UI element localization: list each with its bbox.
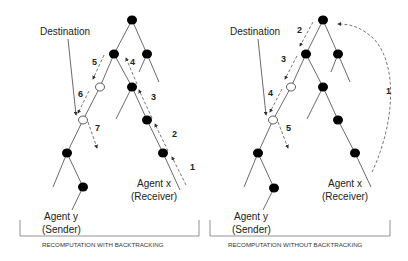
right-panel: 1 2 3 4 5 Destination Agent x (Receiver)…	[210, 16, 391, 249]
right-step-arrows	[270, 22, 391, 172]
destination-pointer-arrow	[68, 39, 76, 115]
step-label: 3	[281, 54, 286, 64]
right-tree-nodes	[253, 16, 360, 193]
step-label: 5	[92, 57, 97, 67]
left-tree-nodes	[62, 16, 168, 192]
tree-node	[253, 149, 263, 158]
tree-node	[127, 83, 137, 92]
receiver-label: Agent x	[137, 178, 171, 189]
left-panel: 1 2 3 4 5 6 7 Destination Agent x (Recei…	[20, 16, 199, 249]
sender-node	[269, 184, 279, 193]
destination-pointer-arrow	[258, 39, 266, 115]
destination-node	[269, 116, 278, 124]
step-label: 5	[286, 123, 291, 133]
sender-label-role: (Sender)	[232, 224, 271, 235]
tree-node	[142, 116, 152, 125]
step-label: 7	[95, 123, 100, 133]
receiver-node	[158, 149, 168, 158]
recomputation-diagram: 1 2 3 4 5 6 7 Destination Agent x (Recei…	[0, 0, 408, 261]
path-node-open	[287, 83, 296, 91]
sender-label: Agent y	[44, 211, 78, 222]
tree-node	[142, 50, 152, 59]
sender-node	[78, 183, 88, 192]
tree-node	[62, 149, 72, 158]
receiver-label-role: (Receiver)	[322, 191, 368, 202]
step-label: 6	[78, 89, 83, 99]
panel-caption: RECOMPUTATION WITH BACKTRACKING	[42, 241, 164, 248]
receiver-label: Agent x	[328, 178, 362, 189]
tree-node	[333, 116, 343, 125]
destination-label: Destination	[230, 26, 280, 37]
destination-label: Destination	[40, 26, 90, 37]
step-label: 1	[386, 86, 391, 96]
step-label: 1	[190, 162, 195, 172]
tree-node	[127, 16, 137, 25]
tree-node	[301, 50, 311, 59]
step-label: 3	[151, 92, 156, 102]
step-label: 2	[172, 129, 177, 139]
tree-node	[109, 50, 119, 59]
tree-node	[318, 83, 328, 92]
receiver-label-role: (Receiver)	[131, 191, 177, 202]
tree-node	[318, 16, 328, 25]
panel-caption: RECOMPUTATION WITHOUT BACKTRACKING	[228, 241, 363, 248]
tree-node	[333, 50, 343, 59]
sender-label-role: (Sender)	[42, 224, 81, 235]
sender-label: Agent y	[234, 211, 268, 222]
step-label: 4	[268, 88, 273, 98]
step-label: 2	[297, 25, 302, 35]
step-label: 4	[130, 57, 135, 67]
destination-node	[79, 116, 88, 124]
path-node-open	[96, 83, 105, 91]
receiver-node	[350, 149, 360, 158]
left-step-arrows	[78, 55, 186, 185]
